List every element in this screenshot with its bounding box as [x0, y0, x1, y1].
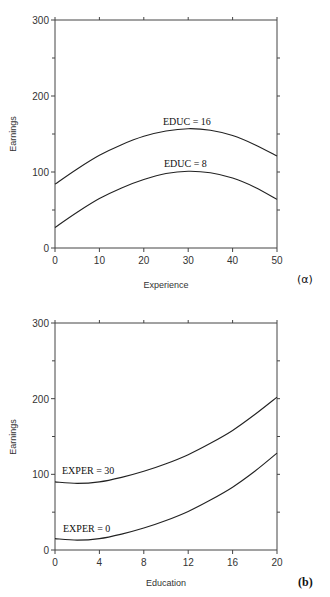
x-tick-label: 0 [52, 255, 58, 266]
y-tick-label: 300 [32, 318, 49, 329]
y-tick-label: 200 [32, 394, 49, 405]
y-tick-label: 100 [32, 167, 49, 178]
chart-panel-b: 0100200300048121620 Earnings Education (… [8, 318, 313, 589]
curve-educ-8 [55, 171, 277, 227]
x-axis-label: Education [146, 578, 186, 588]
y-tick-label: 0 [43, 545, 49, 556]
x-tick-label: 30 [183, 255, 195, 266]
curve-label-educ8: EDUC = 8 [164, 158, 207, 169]
x-tick-label: 10 [94, 255, 106, 266]
plot-frame [55, 20, 277, 248]
curve-educ-16 [55, 129, 277, 184]
panel-label: (b) [298, 575, 313, 589]
x-tick-label: 20 [138, 255, 150, 266]
x-tick-label: 12 [183, 557, 195, 568]
x-tick-label: 8 [141, 557, 147, 568]
x-axis-label: Experience [143, 280, 188, 290]
data-curves [55, 129, 277, 228]
figure: 010020030001020304050 Earnings Experienc… [0, 0, 330, 597]
y-axis-label: Earnings [8, 419, 18, 455]
curve-label-exper30: EXPER = 30 [62, 465, 114, 476]
x-tick-label: 50 [271, 255, 283, 266]
x-tick-label: 20 [271, 557, 283, 568]
chart-panel-a: 010020030001020304050 Earnings Experienc… [8, 15, 313, 290]
x-tick-label: 40 [227, 255, 239, 266]
y-tick-label: 100 [32, 469, 49, 480]
curve-label-educ16: EDUC = 16 [163, 116, 211, 127]
x-tick-label: 0 [52, 557, 58, 568]
curve-label-exper0: EXPER = 0 [63, 523, 110, 534]
plot-frame [55, 323, 277, 550]
y-tick-label: 200 [32, 91, 49, 102]
y-tick-label: 300 [32, 15, 49, 26]
y-axis-label: Earnings [8, 116, 18, 152]
x-tick-label: 16 [227, 557, 239, 568]
y-tick-label: 0 [43, 243, 49, 254]
x-tick-label: 4 [97, 557, 103, 568]
panel-label: (α) [297, 273, 313, 286]
